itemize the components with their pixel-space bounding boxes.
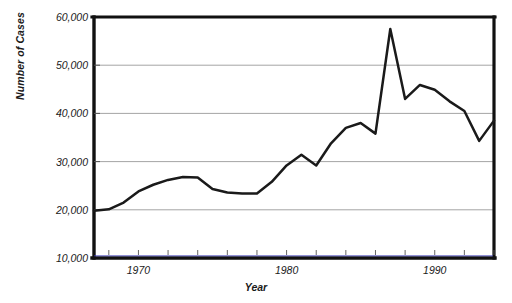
- data-series-line: [94, 29, 494, 211]
- plot-area: [0, 0, 512, 303]
- chart-container: Number of Cases 10,00020,00030,00040,000…: [0, 0, 512, 303]
